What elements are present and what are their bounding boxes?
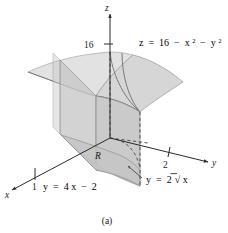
y-tick-label: 2 <box>163 160 168 170</box>
surface-eq-minus-2: − <box>200 37 206 48</box>
line-eq-minus: − <box>81 181 87 192</box>
line-eq-coefficient: 4 <box>64 181 69 192</box>
surface-eq-lhs: z <box>139 37 144 48</box>
curve-equation-label: y = 2 √ x <box>146 174 188 185</box>
surface-eq-y-exponent: 2 <box>218 37 221 44</box>
line-eq-variable: x <box>71 181 76 192</box>
y-axis-label: y <box>211 158 217 168</box>
surface-eq-x-base: x <box>185 37 190 48</box>
z-axis-label: z <box>104 3 109 13</box>
curve-eq-radicand: x <box>183 174 188 185</box>
line-eq-constant: 2 <box>92 181 97 192</box>
wall-left-return <box>53 53 60 134</box>
svg-text:y = 2: y = 2 √ x <box>146 174 188 185</box>
surface-eq-constant: 16 <box>159 37 169 48</box>
svg-text:z = 16: z = 16 − x 2 − y 2 <box>139 34 221 48</box>
figure-container: z y x 16 1 2 R z = 16 − x 2 <box>0 0 228 233</box>
curve-eq-lhs: y <box>146 174 151 185</box>
svg-text:y = 4: y = 4 x − 2 <box>43 181 97 192</box>
x-tick-label: 1 <box>32 182 37 192</box>
curve-eq-equals: = <box>156 174 162 185</box>
surface-eq-minus-1: − <box>174 37 180 48</box>
curve-eq-coefficient: 2 <box>167 174 172 185</box>
figure-caption: (a) <box>102 216 113 227</box>
surface-equation-label: z = 16 − x 2 − y 2 <box>139 34 221 48</box>
solid-region-3d-figure: z y x 16 1 2 R z = 16 − x 2 <box>0 0 228 233</box>
surface-eq-y-base: y <box>211 37 216 48</box>
region-R-label: R <box>94 151 101 161</box>
x-axis-label: x <box>4 190 10 200</box>
line-eq-lhs: y <box>43 181 48 192</box>
line-eq-equals: = <box>53 181 59 192</box>
surface-eq-equals: = <box>148 37 154 48</box>
line-equation-label: y = 4 x − 2 <box>43 181 97 192</box>
z-tick-label: 16 <box>84 40 94 50</box>
curve-eq-radical-sign: √ <box>175 174 181 185</box>
surface-eq-x-exponent: 2 <box>192 37 195 44</box>
